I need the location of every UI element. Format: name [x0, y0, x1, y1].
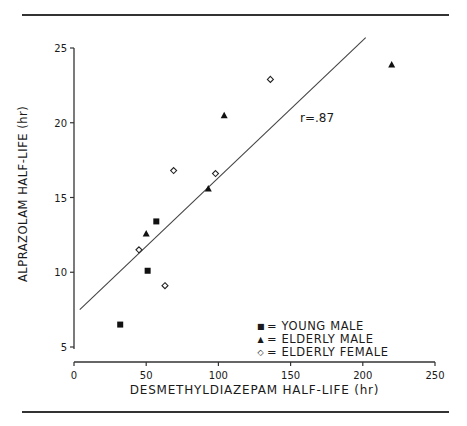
correlation-annotation: r=.87: [300, 111, 334, 125]
y-tick-label: 5: [61, 342, 67, 353]
y-tick-label: 25: [54, 43, 67, 54]
data-point-elderly-male: [388, 61, 395, 68]
y-tick-label: 20: [54, 118, 67, 129]
data-point-elderly-female: [213, 171, 219, 177]
x-tick-label: 250: [425, 370, 444, 381]
scatter-plot: 510152025050100150200250: [0, 0, 467, 426]
data-point-elderly-female: [162, 283, 168, 289]
data-point-young-male: [117, 322, 123, 328]
x-axis-label: DESMETHYLDIAZEPAM HALF-LIFE (hr): [74, 383, 435, 397]
legend: ■ = YOUNG MALE ▲ = ELDERLY MALE ◇ = ELDE…: [255, 320, 389, 359]
data-point-young-male: [153, 218, 159, 224]
x-tick-label: 200: [353, 370, 372, 381]
open-diamond-icon: ◇: [255, 346, 267, 359]
regression-line: [80, 38, 366, 310]
y-axis-label: ALPRAZOLAM HALF-LIFE (hr): [16, 132, 30, 282]
x-tick-label: 100: [209, 370, 228, 381]
legend-item-elderly-female: ◇ = ELDERLY FEMALE: [255, 346, 389, 359]
data-point-young-male: [145, 268, 151, 274]
legend-label: = ELDERLY FEMALE: [267, 346, 389, 359]
data-point-elderly-male: [205, 185, 212, 192]
data-point-elderly-male: [221, 112, 228, 119]
x-tick-label: 150: [281, 370, 300, 381]
filled-square-icon: ■: [255, 320, 267, 333]
data-point-elderly-male: [143, 230, 150, 237]
data-point-elderly-female: [171, 168, 177, 174]
x-tick-label: 50: [140, 370, 153, 381]
data-point-elderly-female: [267, 76, 273, 82]
filled-triangle-icon: ▲: [255, 333, 267, 346]
y-tick-label: 15: [54, 193, 67, 204]
x-tick-label: 0: [71, 370, 77, 381]
y-tick-label: 10: [54, 267, 67, 278]
